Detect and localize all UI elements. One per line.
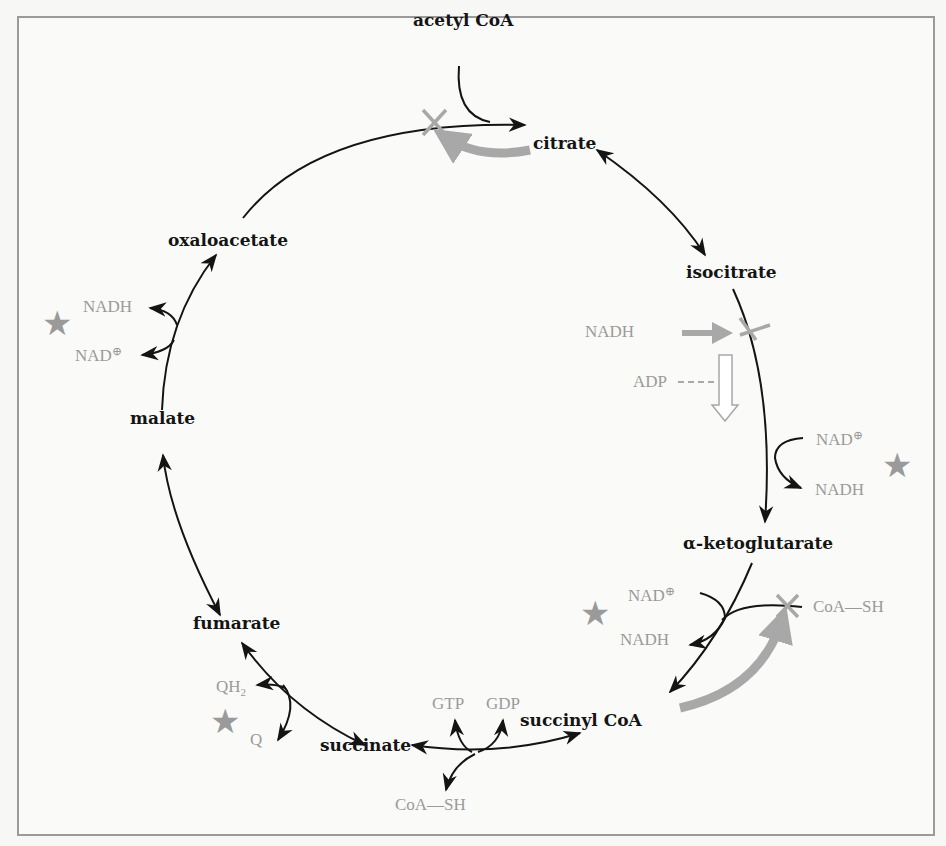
label-nad-2: NAD⊕ bbox=[628, 584, 675, 606]
label-succinate: succinate bbox=[320, 735, 411, 755]
star-icon: ★ bbox=[882, 448, 912, 482]
adp-activate-arrow bbox=[712, 355, 738, 421]
arrow-gdp bbox=[478, 720, 503, 752]
label-fumarate: fumarate bbox=[193, 613, 280, 633]
label-qh2: QH2 bbox=[216, 677, 246, 698]
label-succinyl-coa: succinyl CoA bbox=[520, 710, 642, 730]
label-oxaloacetate: oxaloacetate bbox=[168, 230, 288, 250]
arrow-nad-nadh-2 bbox=[690, 593, 725, 645]
label-nad-1: NAD⊕ bbox=[816, 428, 863, 450]
arrow-succinylcoa-succinate bbox=[412, 733, 580, 749]
arrow-nad-nadh-1 bbox=[775, 438, 803, 488]
feedback-arrow-citrate bbox=[445, 137, 530, 153]
arrow-nadh-out bbox=[150, 308, 177, 325]
label-nadh-3: NADH bbox=[83, 297, 132, 317]
nadh-inhibit-arrow bbox=[682, 322, 733, 344]
arrow-coash-out bbox=[446, 754, 475, 790]
label-nad-3: NAD⊕ bbox=[75, 344, 122, 366]
label-coash-1: CoA—SH bbox=[813, 597, 884, 617]
label-nadh-2: NADH bbox=[620, 630, 669, 650]
label-citrate: citrate bbox=[533, 133, 596, 153]
star-icon: ★ bbox=[42, 306, 72, 340]
arrow-fumarate-malate bbox=[163, 455, 220, 615]
arrow-gtp bbox=[455, 720, 472, 752]
label-q: Q bbox=[250, 730, 262, 750]
label-acetyl-coa: acetyl CoA bbox=[413, 10, 513, 30]
label-gdp: GDP bbox=[486, 694, 520, 714]
label-isocitrate: isocitrate bbox=[686, 262, 777, 282]
label-adp-activator: ADP bbox=[633, 372, 667, 392]
arrow-oxaloacetate-citrate bbox=[243, 125, 525, 218]
arrow-acetyl-coa bbox=[459, 66, 490, 122]
star-icon: ★ bbox=[210, 704, 240, 738]
star-icon: ★ bbox=[580, 596, 610, 630]
label-malate: malate bbox=[130, 408, 195, 428]
arrow-citrate-isocitrate bbox=[597, 150, 705, 255]
inhibit-x-isocitrate-dh bbox=[740, 318, 770, 340]
inhibit-x-citrate-synthase bbox=[423, 110, 446, 135]
label-nadh-1: NADH bbox=[815, 480, 864, 500]
label-gtp: GTP bbox=[432, 694, 464, 714]
arrow-akg-succinylcoa bbox=[670, 563, 752, 692]
arrow-malate-oxaloacetate bbox=[162, 255, 216, 410]
label-alpha-ketoglutarate: α-ketoglutarate bbox=[683, 533, 833, 553]
label-coash-2: CoA—SH bbox=[395, 795, 466, 815]
arrow-q-qh2 bbox=[278, 685, 290, 740]
label-nadh-inhibitor: NADH bbox=[585, 322, 634, 342]
